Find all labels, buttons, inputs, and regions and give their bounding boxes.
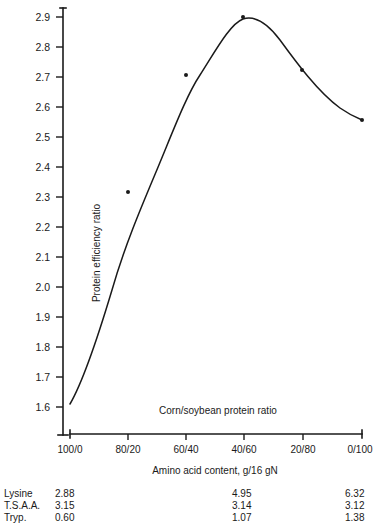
y-tick-label-1.8: 1.8 <box>35 341 50 353</box>
y-tick-label-2.4: 2.4 <box>35 161 50 173</box>
y-tick-label-2.6: 2.6 <box>35 101 50 113</box>
y-axis-ticks <box>56 17 63 407</box>
x-tick-label-20-80: 20/80 <box>290 444 315 455</box>
data-point-40-60 <box>241 15 245 19</box>
y-tick-label-1.9: 1.9 <box>35 311 50 323</box>
row-label-tryp: Tryp. <box>4 512 26 523</box>
amino-acid-table: Lysine 2.88 4.95 6.32 T.S.A.A. 3.15 3.14… <box>4 488 365 523</box>
lysine-middle: 4.95 <box>232 488 252 499</box>
y-tick-label-2.9: 2.9 <box>35 11 50 23</box>
table-row: T.S.A.A. 3.15 3.14 3.12 <box>4 500 365 511</box>
y-tick-label-2.3: 2.3 <box>35 191 50 203</box>
data-point-20-80 <box>300 68 304 72</box>
y-tick-label-2.0: 2.0 <box>35 281 50 293</box>
x-tick-label-60-40: 60/40 <box>173 444 198 455</box>
lysine-left: 2.88 <box>55 488 75 499</box>
tsaa-left: 3.15 <box>55 500 75 511</box>
x-axis-tick-labels: 100/0 80/20 60/40 40/60 20/80 0/100 <box>57 444 372 455</box>
data-points <box>126 15 364 194</box>
tsaa-right: 3.12 <box>345 500 365 511</box>
row-label-lysine: Lysine <box>4 488 33 499</box>
tsaa-middle: 3.14 <box>232 500 252 511</box>
data-point-0-100 <box>360 118 364 122</box>
per-line-chart: 2.9 2.8 2.7 2.6 2.5 2.4 2.3 2.2 2.1 2.0 … <box>0 0 378 530</box>
data-point-80-20 <box>126 190 130 194</box>
y-tick-label-1.7: 1.7 <box>35 371 50 383</box>
data-point-60-40 <box>184 73 188 77</box>
table-row: Tryp. 0.60 1.07 1.38 <box>4 512 365 523</box>
x-tick-label-80-20: 80/20 <box>115 444 140 455</box>
chart-figure: 2.9 2.8 2.7 2.6 2.5 2.4 2.3 2.2 2.1 2.0 … <box>0 0 378 530</box>
table-row: Lysine 2.88 4.95 6.32 <box>4 488 365 499</box>
x-tick-label-40-60: 40/60 <box>231 444 256 455</box>
y-tick-label-2.5: 2.5 <box>35 131 50 143</box>
x-axis-ticks <box>128 434 303 440</box>
y-tick-label-2.2: 2.2 <box>35 221 50 233</box>
fitted-curve <box>70 18 362 404</box>
x-axis-title: Corn/soybean protein ratio <box>159 405 277 416</box>
row-label-tsaa: T.S.A.A. <box>4 500 40 511</box>
tryp-right: 1.38 <box>345 512 365 523</box>
y-tick-label-2.7: 2.7 <box>35 71 50 83</box>
x-tick-label-100-0: 100/0 <box>57 444 82 455</box>
tryp-left: 0.60 <box>55 512 75 523</box>
lysine-right: 6.32 <box>345 488 365 499</box>
y-tick-label-1.6: 1.6 <box>35 401 50 413</box>
y-tick-label-2.8: 2.8 <box>35 41 50 53</box>
y-axis-title: Protein efficiency ratio <box>91 203 102 302</box>
y-axis-tick-labels: 2.9 2.8 2.7 2.6 2.5 2.4 2.3 2.2 2.1 2.0 … <box>35 11 50 413</box>
y-tick-label-2.1: 2.1 <box>35 251 50 263</box>
tryp-middle: 1.07 <box>232 512 252 523</box>
x-tick-label-0-100: 0/100 <box>347 444 372 455</box>
secondary-x-axis-title: Amino acid content, g/16 gN <box>152 465 278 476</box>
